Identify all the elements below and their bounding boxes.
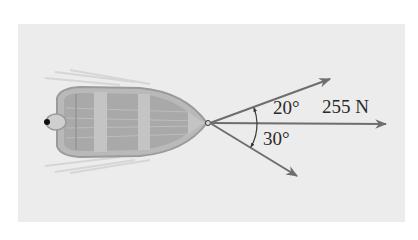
angle-arc-20 — [254, 108, 257, 123]
upper-rope-arrow — [210, 79, 330, 123]
bow-ring — [206, 121, 211, 126]
angle-label-30: 30° — [263, 128, 290, 150]
angle-arcs — [251, 108, 257, 147]
force-label: 255 N — [322, 96, 369, 118]
angle-label-20: 20° — [273, 97, 300, 119]
force-vectors — [210, 79, 386, 176]
rowboat — [44, 87, 211, 157]
angle-arc-30 — [251, 123, 257, 147]
tension-arrow-255n — [210, 123, 386, 124]
